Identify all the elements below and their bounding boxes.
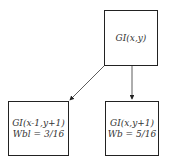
node-gi-x-1-y-1: GI(x-1,y+1) Wbl = 3/16 (8, 101, 69, 156)
edge-top-to-bottom-left (70, 65, 105, 100)
node-weight: Wbl = 3/16 (13, 129, 64, 140)
node-label: GI(x-1,y+1) (12, 118, 65, 129)
node-weight: Wb = 5/16 (108, 129, 157, 140)
node-label: GI(x,y) (116, 33, 147, 44)
node-gi-x-y-1: GI(x,y+1) Wb = 5/16 (105, 101, 159, 156)
node-gi-x-y: GI(x,y) (104, 10, 158, 66)
node-label: GI(x,y+1) (110, 118, 154, 129)
